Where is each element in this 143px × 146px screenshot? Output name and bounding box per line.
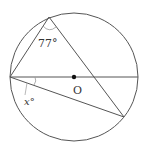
angle-arc-top	[43, 26, 56, 30]
angle-label-77: 77°	[38, 37, 58, 50]
x-label-pointer	[25, 83, 27, 95]
geometry-diagram: 77° O x°	[0, 0, 143, 146]
chord-top-bottom-right	[49, 17, 124, 117]
center-label: O	[73, 84, 82, 97]
center-point	[72, 75, 76, 79]
angle-label-x: x°	[24, 96, 35, 107]
angle-arc-x	[34, 77, 36, 85]
